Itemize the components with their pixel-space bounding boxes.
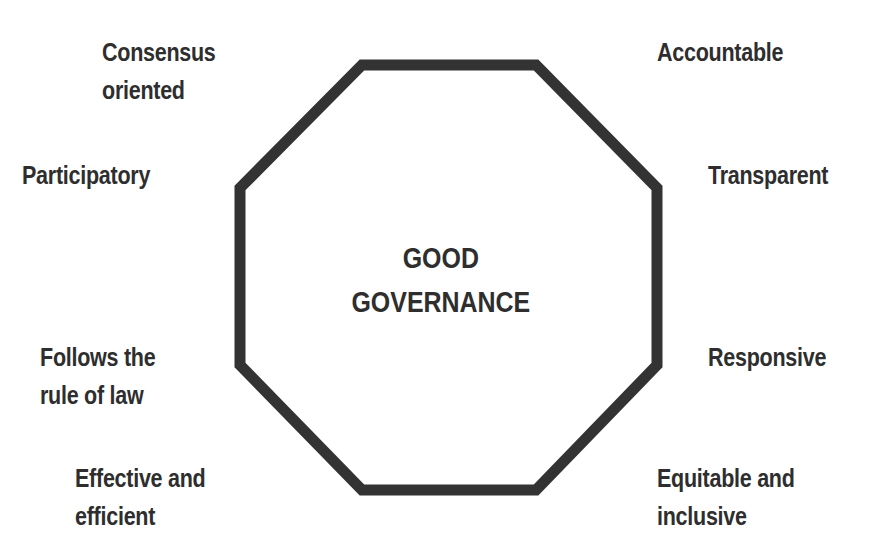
label-equitable-inclusive: Equitable and inclusive <box>657 459 795 535</box>
label-line: Effective and <box>75 459 205 497</box>
center-title-line-2: GOVERNANCE <box>63 280 819 324</box>
label-line: Accountable <box>657 33 783 71</box>
label-consensus-oriented: Consensus oriented <box>102 33 216 109</box>
label-line: oriented <box>102 71 216 109</box>
label-line: efficient <box>75 497 205 535</box>
label-effective-efficient: Effective and efficient <box>75 459 205 535</box>
label-line: inclusive <box>657 497 795 535</box>
label-line: Follows the <box>40 338 155 376</box>
label-line: rule of law <box>40 376 155 414</box>
label-line: Responsive <box>708 338 826 376</box>
label-participatory: Participatory <box>22 156 150 194</box>
center-title-line-1: GOOD <box>63 236 819 280</box>
label-accountable: Accountable <box>657 33 783 71</box>
label-line: Consensus <box>102 33 216 71</box>
label-rule-of-law: Follows the rule of law <box>40 338 155 414</box>
good-governance-diagram: GOOD GOVERNANCE Consensus oriented Accou… <box>0 0 879 551</box>
label-line: Equitable and <box>657 459 795 497</box>
label-transparent: Transparent <box>708 156 828 194</box>
label-responsive: Responsive <box>708 338 826 376</box>
label-line: Participatory <box>22 156 150 194</box>
center-title: GOOD GOVERNANCE <box>63 236 819 324</box>
label-line: Transparent <box>708 156 828 194</box>
